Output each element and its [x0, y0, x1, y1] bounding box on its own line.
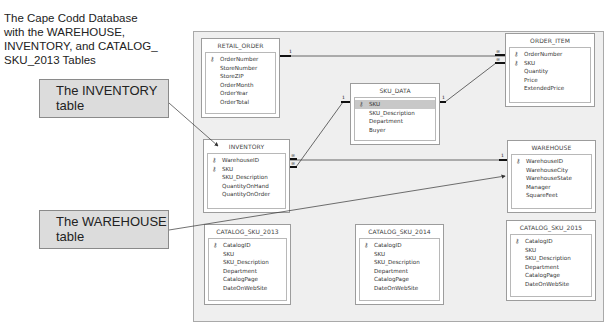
callout-warehouse-pointer — [169, 176, 505, 230]
many-marker: ∞ — [496, 48, 500, 54]
svg-text:1: 1 — [501, 153, 504, 158]
relationship-lines: 1 ∞ 1 ∞ 1 ∞ ∞ 1 — [0, 0, 614, 327]
svg-text:∞: ∞ — [291, 152, 295, 158]
svg-text:∞: ∞ — [496, 56, 500, 62]
one-marker: 1 — [289, 49, 292, 54]
relationship-retail-order-order-item: 1 ∞ — [280, 48, 505, 56]
callout-inventory-pointer — [169, 103, 218, 146]
svg-text:∞: ∞ — [291, 160, 295, 166]
relationship-sku-data-inventory: 1 ∞ — [290, 95, 350, 167]
svg-text:1: 1 — [342, 95, 345, 100]
relationship-warehouse-inventory: ∞ 1 — [290, 152, 507, 160]
svg-text:1: 1 — [442, 95, 445, 100]
relationship-sku-data-order-item: 1 ∞ — [440, 56, 505, 102]
